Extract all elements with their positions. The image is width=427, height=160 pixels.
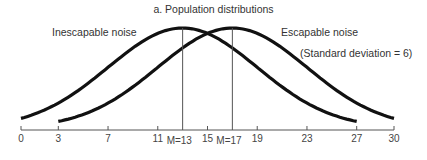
distribution-chart: 037111519232730 M=13 M=17 bbox=[0, 0, 427, 160]
x-tick-label: 15 bbox=[202, 133, 214, 144]
mean-label-13: M=13 bbox=[167, 135, 193, 146]
x-tick-label: 7 bbox=[105, 133, 111, 144]
x-tick-label: 0 bbox=[18, 133, 24, 144]
x-tick-label: 19 bbox=[252, 133, 264, 144]
x-tick-label: 23 bbox=[301, 133, 313, 144]
x-tick-label: 11 bbox=[153, 133, 164, 144]
mean-label-17: M=17 bbox=[216, 135, 242, 146]
x-tick-label: 27 bbox=[351, 133, 363, 144]
x-tick-label: 30 bbox=[388, 133, 400, 144]
x-tick-label: 3 bbox=[56, 133, 62, 144]
